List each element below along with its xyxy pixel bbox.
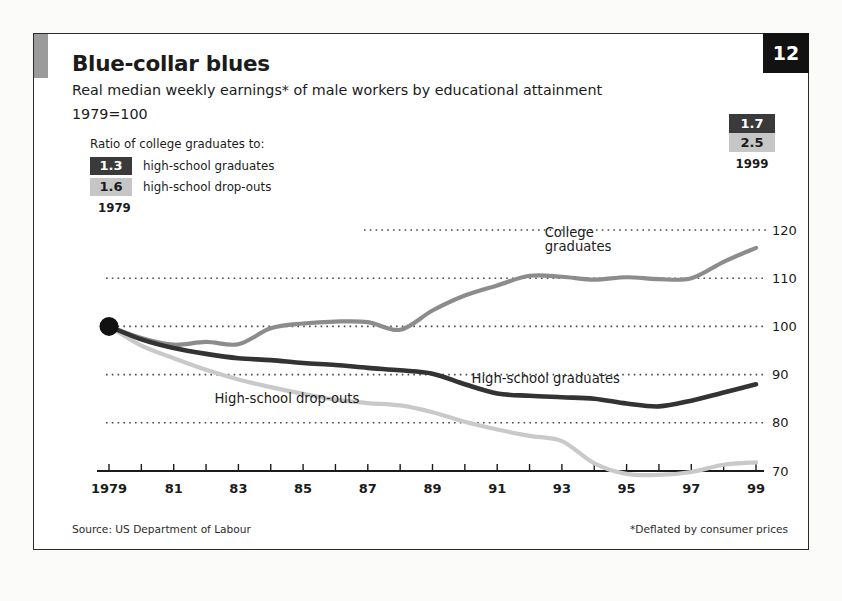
y-axis-tick-120: 120 [772, 223, 797, 238]
chart-plot-area: 708090100110120197981838587899193959799 … [34, 34, 810, 551]
series-line-college-graduates [109, 248, 756, 345]
legend-swatch-hs-graduates: 1.3 [90, 157, 132, 175]
ratio-legend: Ratio of college graduates to: 1.3 high-… [90, 137, 390, 215]
series-annotation-high-school-graduates: High-school graduates [472, 372, 620, 386]
series-line-high-school-drop-outs [109, 326, 756, 475]
page-canvas: 12 Blue-collar blues Real median weekly … [0, 0, 842, 601]
x-axis-label-1979: 1979 [91, 481, 127, 496]
legend-label-hs-graduates: high-school graduates [143, 159, 274, 173]
legend-row-hs-dropouts: 1.6 high-school drop-outs [90, 177, 390, 196]
ratio-value-hs-graduates-1999: 1.7 [729, 114, 775, 133]
y-axis-tick-90: 90 [772, 367, 789, 382]
legend-year-start: 1979 [98, 201, 390, 215]
legend-title: Ratio of college graduates to: [90, 137, 390, 151]
x-axis-label-97: 97 [682, 481, 700, 496]
legend-swatch-hs-dropouts: 1.6 [90, 178, 132, 196]
x-axis-label-93: 93 [553, 481, 571, 496]
series-annotation-college-graduates: Collegegraduates [545, 226, 612, 255]
page-number-badge: 12 [763, 33, 809, 73]
x-axis-label-89: 89 [423, 481, 441, 496]
x-axis-label-91: 91 [488, 481, 506, 496]
legend-row-hs-graduates: 1.3 high-school graduates [90, 156, 390, 175]
ratio-value-hs-dropouts-1999: 2.5 [729, 133, 775, 152]
y-axis-tick-110: 110 [772, 271, 797, 286]
page-title: Blue-collar blues [72, 51, 270, 76]
chart-subtitle: Real median weekly earnings* of male wor… [72, 82, 602, 98]
footnote-note: *Deflated by consumer prices [630, 523, 788, 535]
y-axis-tick-70: 70 [772, 464, 789, 479]
legend-label-hs-dropouts: high-school drop-outs [143, 180, 271, 194]
y-axis-tick-100: 100 [772, 319, 797, 334]
x-axis-label-85: 85 [294, 481, 312, 496]
baseline-note: 1979=100 [72, 106, 148, 122]
chart-svg: 708090100110120197981838587899193959799 [34, 34, 810, 551]
x-axis-label-95: 95 [618, 481, 636, 496]
x-axis-label-87: 87 [359, 481, 377, 496]
series-line-high-school-graduates [109, 326, 756, 406]
y-axis-tick-80: 80 [772, 415, 789, 430]
card-accent-tab [34, 34, 48, 78]
x-axis-label-83: 83 [229, 481, 247, 496]
ratio-end-values: 1.7 2.5 1999 [729, 114, 775, 171]
chart-card: 12 Blue-collar blues Real median weekly … [33, 33, 809, 550]
series-annotation-high-school-drop-outs: High-school drop-outs [214, 392, 359, 406]
ratio-year-end: 1999 [729, 157, 775, 171]
x-axis-label-99: 99 [747, 481, 765, 496]
source-note: Source: US Department of Labour [72, 523, 251, 535]
origin-marker-dot [100, 317, 119, 336]
x-axis-label-81: 81 [165, 481, 183, 496]
